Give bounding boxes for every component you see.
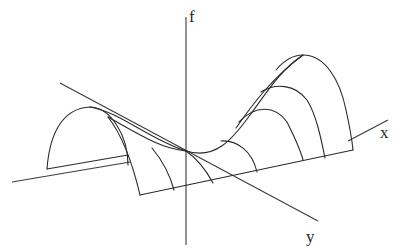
left-base-edge [47,155,128,169]
front-base-edge [140,150,353,195]
f-axis-label: f [189,8,195,25]
saddle-ridge-curve [90,55,303,153]
right-arch-large [276,55,353,150]
right-arch-medium [261,86,325,158]
y-axis-label: y [306,228,315,245]
back-parabola-curve [108,117,186,151]
cross-section-3 [221,141,257,172]
saddle-surface-diagram [0,0,400,250]
cross-section-1 [152,148,174,190]
right-front-edge [236,55,303,128]
cross-section-2 [186,151,213,183]
x-axis-label: x [380,124,389,141]
